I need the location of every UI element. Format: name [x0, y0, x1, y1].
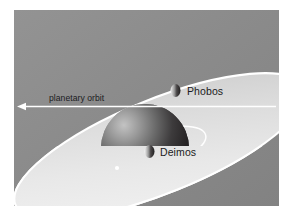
- diagram-panel: planetary orbit Phobos Deimos: [14, 10, 279, 206]
- planetary-orbit-label: planetary orbit: [49, 93, 105, 103]
- orbit-diagram: planetary orbit Phobos Deimos: [14, 10, 279, 206]
- phobos-label: Phobos: [187, 85, 223, 97]
- ring-node-marker: [115, 166, 119, 170]
- deimos-label: Deimos: [160, 146, 196, 158]
- deimos-moon-icon: [145, 145, 155, 158]
- phobos-moon-icon: [171, 84, 181, 97]
- figure-root: planetary orbit Phobos Deimos: [0, 0, 293, 222]
